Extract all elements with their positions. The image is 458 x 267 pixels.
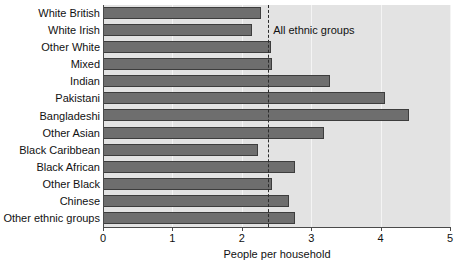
bar bbox=[103, 92, 385, 104]
category-label: Black African bbox=[0, 162, 100, 173]
bar-row bbox=[103, 176, 450, 193]
category-label: Other Black bbox=[0, 179, 100, 190]
bar bbox=[103, 195, 289, 207]
y-axis-line bbox=[103, 5, 104, 228]
bar bbox=[103, 212, 295, 224]
x-tick bbox=[172, 227, 173, 231]
x-tick bbox=[311, 227, 312, 231]
category-label: Black Caribbean bbox=[0, 145, 100, 156]
bar bbox=[103, 161, 295, 173]
bar-row bbox=[103, 90, 450, 107]
bar bbox=[103, 41, 271, 53]
bar bbox=[103, 58, 272, 70]
bar bbox=[103, 7, 261, 19]
category-label: Mixed bbox=[0, 59, 100, 70]
bar bbox=[103, 178, 272, 190]
bar-chart: White BritishWhite IrishOther WhiteMixed… bbox=[0, 0, 458, 267]
category-label: White Irish bbox=[0, 25, 100, 36]
x-tick-label: 0 bbox=[93, 232, 113, 244]
x-tick bbox=[381, 227, 382, 231]
category-label: Other Asian bbox=[0, 128, 100, 139]
category-label: Indian bbox=[0, 76, 100, 87]
category-axis-labels: White BritishWhite IrishOther WhiteMixed… bbox=[0, 5, 100, 227]
category-label: Bangladeshi bbox=[0, 111, 100, 122]
x-axis-title: People per household bbox=[103, 248, 451, 260]
x-tick-label: 3 bbox=[301, 232, 321, 244]
bar-row bbox=[103, 5, 450, 22]
category-label: Other ethnic groups bbox=[0, 213, 100, 224]
x-tick bbox=[450, 227, 451, 231]
bar-row bbox=[103, 107, 450, 124]
category-label: Chinese bbox=[0, 196, 100, 207]
bar bbox=[103, 75, 330, 87]
bar-row bbox=[103, 39, 450, 56]
bar bbox=[103, 144, 258, 156]
bar-row bbox=[103, 56, 450, 73]
reference-line-label: All ethnic groups bbox=[273, 25, 354, 36]
x-tick bbox=[242, 227, 243, 231]
bar bbox=[103, 109, 409, 121]
x-axis-line bbox=[103, 227, 451, 228]
bar-row bbox=[103, 142, 450, 159]
bar-row bbox=[103, 193, 450, 210]
x-tick-label: 4 bbox=[371, 232, 391, 244]
bar bbox=[103, 127, 324, 139]
bar-row bbox=[103, 210, 450, 227]
bar-row bbox=[103, 159, 450, 176]
category-label: White British bbox=[0, 8, 100, 19]
x-tick-label: 1 bbox=[162, 232, 182, 244]
bar-row bbox=[103, 73, 450, 90]
bar-row bbox=[103, 125, 450, 142]
x-tick bbox=[103, 227, 104, 231]
reference-line bbox=[268, 5, 269, 227]
x-tick-label: 2 bbox=[232, 232, 252, 244]
x-tick-label: 5 bbox=[440, 232, 458, 244]
gridline bbox=[450, 5, 451, 227]
category-label: Other White bbox=[0, 42, 100, 53]
category-label: Pakistani bbox=[0, 93, 100, 104]
bar bbox=[103, 24, 252, 36]
